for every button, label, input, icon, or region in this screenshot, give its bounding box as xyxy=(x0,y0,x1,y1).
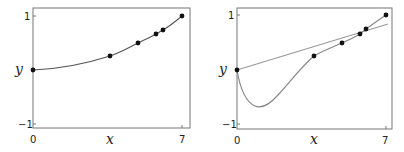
right-ytick-label-bottom: −1 xyxy=(222,119,237,130)
right-xtick-label-right: 7 xyxy=(382,135,388,146)
left-y-axis-label: y xyxy=(14,61,24,77)
left-xtick-label-right: 7 xyxy=(179,134,185,145)
left-x-axis-label: x xyxy=(106,131,114,147)
left-xtick-label-left: 0 xyxy=(30,134,36,145)
right-y-axis-label: y xyxy=(218,61,228,77)
left-panel: 1 −1 0 7 y x xyxy=(14,8,190,147)
right-axes-frame xyxy=(237,8,392,129)
right-panel: 1 −1 0 7 y x xyxy=(218,8,392,147)
figure: 1 −1 0 7 y x 1 −1 0 7 y x xyxy=(0,0,404,152)
right-ytick-label-top: 1 xyxy=(228,10,234,21)
left-interpolant-curve xyxy=(33,16,182,70)
right-xtick-label-left: 0 xyxy=(234,135,240,146)
left-ytick-label-bottom: −1 xyxy=(18,119,33,130)
left-data-points xyxy=(31,14,185,73)
left-ytick-label-top: 1 xyxy=(24,11,30,22)
right-x-axis-label: x xyxy=(310,131,318,147)
